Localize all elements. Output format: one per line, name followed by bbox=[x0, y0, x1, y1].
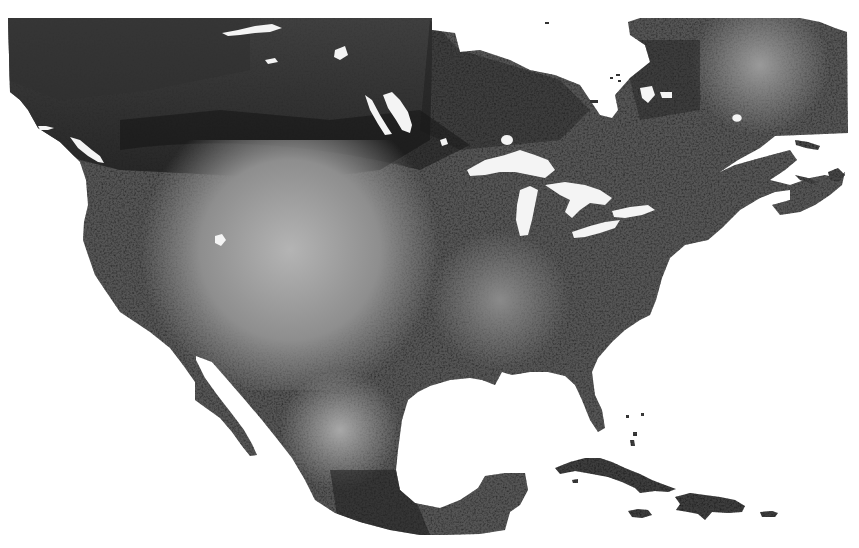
bahamas-1 bbox=[633, 432, 637, 436]
bahamas-4 bbox=[641, 413, 644, 416]
manicouagan bbox=[733, 115, 741, 121]
north-america-map bbox=[0, 0, 859, 548]
quebec-lakes-2 bbox=[660, 92, 672, 98]
bahamas-3 bbox=[626, 415, 629, 418]
lake-nipigon bbox=[501, 135, 513, 145]
